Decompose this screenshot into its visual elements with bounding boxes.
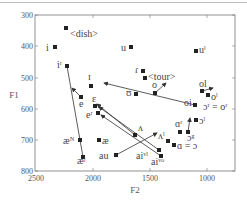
label-I: ɪ: [88, 71, 91, 82]
x-tick-2000: 2000: [85, 174, 101, 183]
label-ir: iʳ: [57, 59, 63, 70]
label-aivo: aiᵛᵒ: [151, 156, 164, 167]
y-tick-400: 400: [21, 42, 33, 51]
x-tick-2500: 2500: [28, 174, 44, 183]
label-aej: æʲ: [77, 155, 86, 166]
label-au: au: [99, 150, 108, 161]
label-a-eq-o: ɑ = ɔ: [177, 140, 198, 151]
label-o: o: [152, 79, 157, 90]
label-ol2: ɔˡ: [199, 115, 205, 126]
label-ar: ɑʳ: [175, 118, 183, 129]
y-tick-500: 500: [21, 74, 33, 83]
label-aivl: aiᵛˡ: [136, 150, 148, 161]
label-epsilon: ɛ: [92, 93, 96, 104]
label-er: eʳ: [86, 109, 93, 120]
x-tick-1000: 1000: [199, 174, 215, 183]
label-wedge-l: ʌˡ: [158, 130, 165, 141]
label-flap: ɾ: [135, 64, 139, 75]
label-dish: <dish>: [70, 28, 98, 39]
label-ul: uˡ: [199, 44, 206, 55]
label-aeN: æᴺ: [63, 135, 75, 146]
label-upsilon: ʊ: [126, 87, 132, 98]
label-i: i: [46, 42, 49, 53]
label-or-eq-or: ɔʳ = oʳ: [203, 101, 228, 112]
y-axis-label: F1: [9, 90, 19, 100]
label-oi: oi: [184, 97, 192, 108]
label-u: u: [121, 42, 126, 53]
label-ae: æ: [102, 135, 109, 146]
x-axis-label: F2: [130, 185, 140, 195]
y-tick-700: 700: [21, 136, 33, 145]
x-tick-1500: 1500: [142, 174, 158, 183]
y-tick-300: 300: [21, 11, 33, 20]
label-ol: ol: [199, 78, 207, 89]
y-tick-600: 600: [21, 105, 33, 114]
vowel-formant-chart: 300 400 500 600 700 800 F1 2500 2000 150…: [0, 0, 247, 204]
label-e: e: [79, 98, 84, 109]
label-wedge: ʌ: [138, 122, 143, 133]
